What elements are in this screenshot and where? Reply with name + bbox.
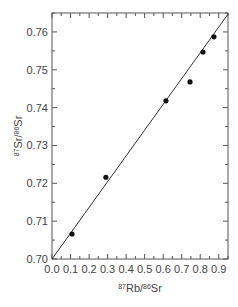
x-tick-label: 0.4: [118, 263, 133, 275]
y-tick-label: 0.75: [27, 64, 48, 76]
x-tick-label: 0.5: [137, 263, 152, 275]
y-tick-label: 0.72: [27, 177, 48, 189]
x-tick-label: 0.9: [211, 263, 226, 275]
y-tick-label: 0.73: [27, 139, 48, 151]
isochron-chart: 0.00.10.20.30.40.50.60.70.80.9 0.700.710…: [0, 0, 238, 307]
data-point: [200, 49, 205, 54]
x-tick-label: 0.1: [63, 263, 78, 275]
data-point: [211, 34, 216, 39]
x-axis-tick-labels: 0.00.10.20.30.40.50.60.70.80.9: [44, 263, 226, 275]
x-axis-label: 87Rb/86Sr: [118, 282, 162, 294]
x-tick-label: 0.8: [193, 263, 208, 275]
y-tick-label: 0.74: [27, 102, 48, 114]
data-point: [187, 79, 192, 84]
y-tick-label: 0.71: [27, 215, 48, 227]
x-tick-label: 0.7: [174, 263, 189, 275]
x-tick-label: 0.6: [156, 263, 171, 275]
data-point: [69, 231, 74, 236]
data-point: [163, 98, 168, 103]
y-tick-label: 0.70: [27, 253, 48, 265]
x-tick-label: 0.3: [100, 263, 115, 275]
x-tick-label: 0.2: [81, 263, 96, 275]
data-point: [103, 175, 108, 180]
y-axis-label: 87Sr/86Sr: [12, 115, 24, 156]
y-tick-label: 0.76: [27, 26, 48, 38]
data-points: [69, 34, 216, 236]
y-axis-tick-labels: 0.700.710.720.730.740.750.76: [27, 26, 48, 265]
